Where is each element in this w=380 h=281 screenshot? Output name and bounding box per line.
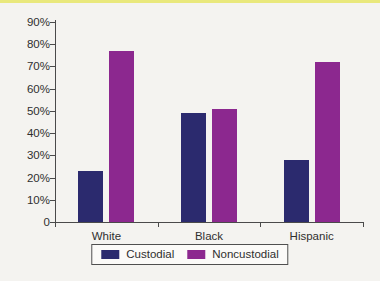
bar-custodial-hispanic — [284, 160, 309, 222]
y-axis-label: 10% — [8, 194, 50, 207]
y-axis-label: 40% — [8, 127, 50, 140]
y-axis-label: 30% — [8, 149, 50, 162]
y-axis-label: 50% — [8, 105, 50, 118]
bar-custodial-white — [78, 171, 103, 222]
bar-noncustodial-hispanic — [315, 62, 340, 222]
y-axis-label: 20% — [8, 172, 50, 185]
legend-item-custodial: Custodial — [101, 248, 174, 261]
y-axis-line — [55, 20, 56, 223]
chart-page: 010%20%30%40%50%60%70%80%90%WhiteBlackHi… — [0, 0, 380, 281]
y-axis-label: 60% — [8, 83, 50, 96]
y-axis-label: 70% — [8, 60, 50, 73]
category-label: White — [66, 230, 146, 243]
category-label: Hispanic — [272, 230, 352, 243]
y-axis-tick — [50, 155, 55, 156]
x-axis-tick — [260, 223, 261, 227]
legend-swatch-custodial — [101, 250, 119, 259]
y-axis-tick — [50, 133, 55, 134]
bar-noncustodial-black — [212, 109, 237, 222]
category-label: Black — [169, 230, 249, 243]
y-axis-tick — [50, 44, 55, 45]
legend: CustodialNoncustodial — [91, 244, 288, 265]
y-axis-tick — [50, 89, 55, 90]
legend-label: Noncustodial — [212, 248, 278, 261]
x-axis-line — [55, 222, 364, 223]
y-axis-label: 90% — [8, 16, 50, 29]
bar-custodial-black — [181, 113, 206, 222]
legend-label: Custodial — [126, 248, 174, 261]
y-axis-tick — [50, 200, 55, 201]
y-axis-tick — [50, 22, 55, 23]
y-axis-label: 80% — [8, 38, 50, 51]
y-axis-tick — [50, 66, 55, 67]
legend-swatch-noncustodial — [187, 250, 205, 259]
y-axis-tick — [50, 111, 55, 112]
x-axis-tick — [363, 223, 364, 227]
x-axis-tick — [158, 223, 159, 227]
bar-chart: 010%20%30%40%50%60%70%80%90%WhiteBlackHi… — [0, 0, 380, 281]
y-axis-label: 0 — [8, 216, 50, 229]
bar-noncustodial-white — [109, 51, 134, 222]
x-axis-tick — [55, 223, 56, 227]
y-axis-tick — [50, 178, 55, 179]
legend-item-noncustodial: Noncustodial — [187, 248, 278, 261]
